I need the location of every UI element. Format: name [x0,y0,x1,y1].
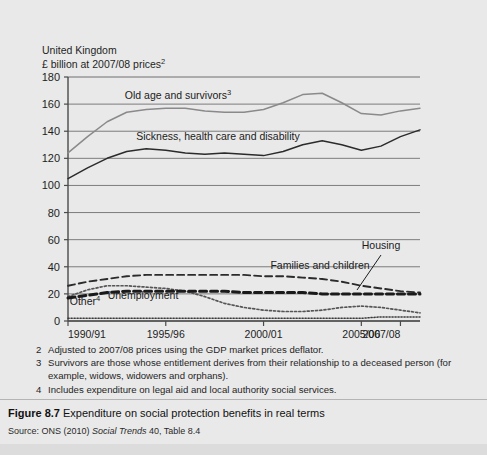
figure-title: Expenditure on social protection benefit… [63,407,325,419]
y-tick-label: 20 [48,288,60,300]
footnote-item: 4Includes expenditure on legal aid and l… [36,383,456,396]
footnote-item: 3Survivors are those whose entitlement d… [36,356,456,382]
annotation-footnote-marker: 3 [227,88,231,97]
annotation-footnote-marker: 4 [96,294,100,303]
footnote-text: Includes expenditure on legal aid and lo… [48,383,456,396]
series-annotation: Unemployment [108,289,179,301]
series-annotation: Sickness, health care and disability [136,130,300,142]
source-prefix: Source: ONS (2010) [8,426,92,436]
x-axis-tick-labels: 1990/911995/962000/012005/062007/08 [68,328,401,340]
series-annotation: Other4 [70,294,100,308]
footnotes: 2Adjusted to 2007/08 prices using the GD… [36,343,456,396]
footnote-number: 4 [36,383,48,396]
x-tick-label: 1990/91 [68,328,106,340]
figure-caption: Figure 8.7 Expenditure on social protect… [8,406,478,421]
source-suffix: 40, Table 8.4 [146,426,200,436]
source-publication: Social Trends [92,426,146,436]
figure-source: Source: ONS (2010) Social Trends 40, Tab… [8,425,478,438]
caption-divider [0,399,487,400]
footnote-number: 3 [36,356,48,382]
figure-container: United Kingdom £ billion at 2007/08 pric… [0,0,487,455]
series-annotation: Families and children [270,259,369,271]
chart-plot: 020406080100120140160180 1990/911995/962… [0,0,487,340]
page-bottom-edge [0,444,487,455]
footnote-number: 2 [36,343,48,356]
footnote-text: Survivors are those whose entitlement de… [48,356,456,382]
series-annotation: Housing [362,239,401,251]
x-tick-label: 2000/01 [245,328,283,340]
series-line [68,317,420,318]
x-tick-label: 2007/08 [362,328,400,340]
y-tick-label: 180 [42,71,60,83]
figure-number: Figure 8.7 [8,407,60,419]
y-tick-label: 60 [48,234,60,246]
x-tick-label: 1995/96 [147,328,185,340]
y-tick-label: 40 [48,261,60,273]
data-series [68,93,420,318]
y-tick-label: 120 [42,152,60,164]
y-tick-label: 100 [42,179,60,191]
y-axis-tick-labels: 020406080100120140160180 [42,71,68,327]
y-tick-label: 80 [48,207,60,219]
footnote-item: 2Adjusted to 2007/08 prices using the GD… [36,343,456,356]
series-annotation: Old age and survivors3 [125,88,231,102]
y-tick-label: 140 [42,125,60,137]
x-axis-ticks [68,321,400,326]
footnote-text: Adjusted to 2007/08 prices using the GDP… [48,343,456,356]
series-line [68,93,420,153]
y-tick-label: 0 [54,315,60,327]
y-tick-label: 160 [42,98,60,110]
